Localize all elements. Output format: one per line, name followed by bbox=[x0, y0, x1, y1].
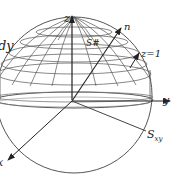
plane-pointer bbox=[130, 53, 139, 68]
normal-label: n bbox=[124, 21, 130, 32]
x-axis bbox=[8, 101, 72, 160]
surface-label: S# bbox=[86, 38, 100, 48]
side-text-dy: dy bbox=[0, 38, 14, 53]
z-axis-label: z bbox=[63, 12, 70, 25]
plane-label: z=1 bbox=[140, 48, 161, 59]
projection-label: Sxy bbox=[147, 128, 163, 143]
sphere-diagram: z y x n z=1 S# Sxy dy bbox=[0, 0, 173, 175]
x-axis-label: x bbox=[0, 156, 4, 169]
y-axis-label: y bbox=[162, 94, 170, 107]
